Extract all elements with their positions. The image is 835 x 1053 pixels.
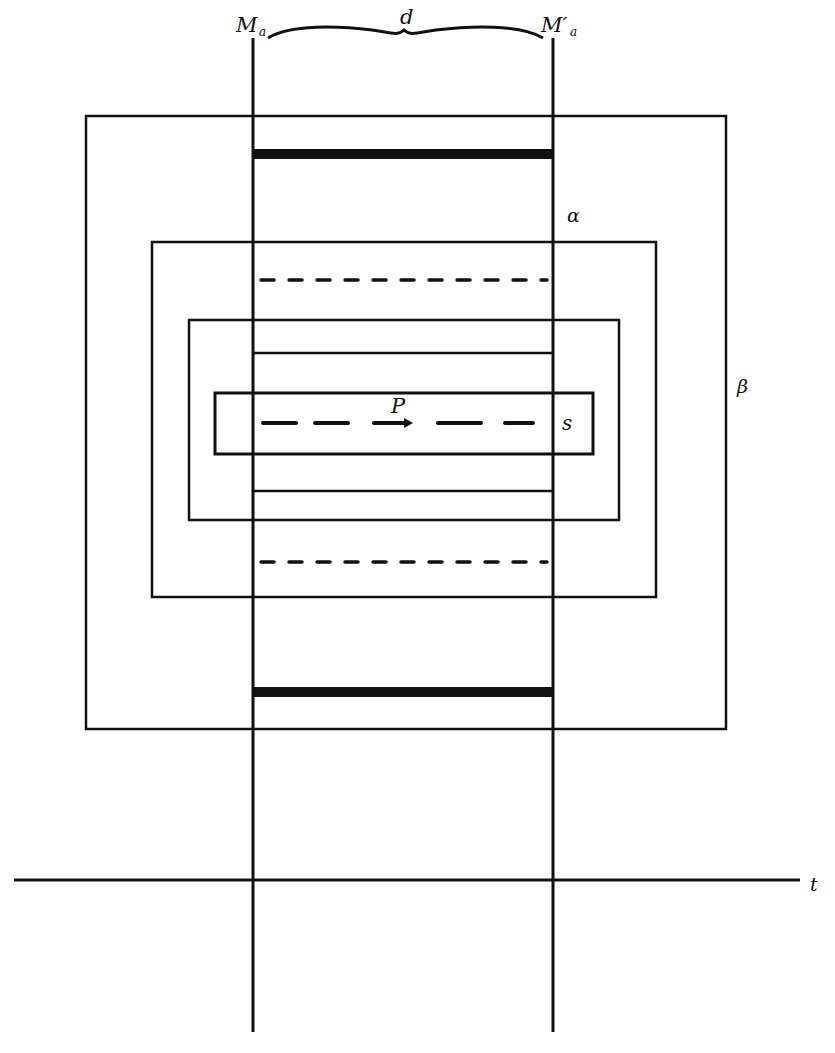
label-s: s: [562, 411, 572, 435]
label-m-a: M: [235, 13, 258, 37]
label-alpha: α: [567, 204, 580, 226]
label-m-a-prime-sub: a: [570, 25, 577, 39]
label-m-a-sub: a: [259, 25, 266, 39]
label-t: t: [810, 873, 818, 895]
label-m-a-prime: M′: [540, 13, 568, 37]
label-d: d: [400, 5, 413, 29]
label-p: P: [390, 394, 406, 418]
arrow-icon: [404, 418, 413, 428]
diagram-canvas: M a d M′ a α β s P t: [0, 0, 835, 1053]
label-beta: β: [736, 375, 748, 397]
